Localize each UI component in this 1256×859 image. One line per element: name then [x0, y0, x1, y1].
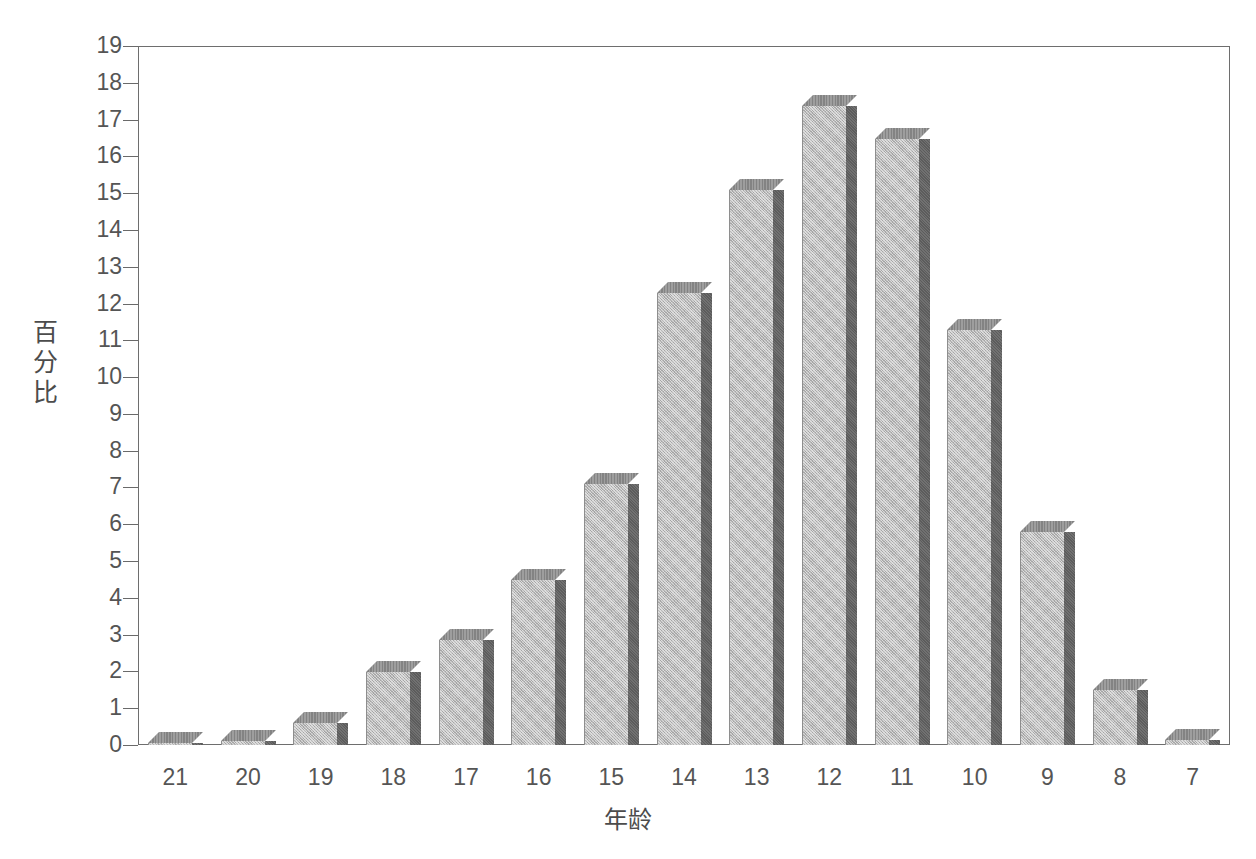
y-axis-tick-mark [123, 671, 138, 672]
y-axis-tick-label: 10 [62, 365, 122, 388]
y-axis-tick-label: 18 [62, 71, 122, 94]
bar [1165, 729, 1220, 746]
bar-front-face [511, 580, 555, 745]
bar [148, 732, 203, 745]
bar [584, 473, 639, 745]
bar-side-face [1137, 690, 1148, 745]
bar-side-face [337, 723, 348, 745]
y-axis-tick-mark [123, 304, 138, 305]
bar-side-face [1064, 532, 1075, 745]
y-axis-tick-mark [123, 120, 138, 121]
y-axis-tick-mark [123, 193, 138, 194]
bar-top-face [657, 282, 712, 293]
y-axis-tick-label: 9 [62, 402, 122, 425]
y-axis-title: 百分比 [28, 318, 62, 408]
y-axis-tick-label: 12 [62, 292, 122, 315]
bar [875, 128, 930, 745]
y-axis-tick-mark [123, 46, 138, 47]
bar [1020, 521, 1075, 745]
bar-front-face [584, 484, 628, 745]
y-axis-tick-label: 16 [62, 144, 122, 167]
y-axis-tick-label: 8 [62, 439, 122, 462]
bar-side-face [410, 672, 421, 745]
y-axis-tick-label: 11 [62, 328, 122, 351]
bar-front-face [657, 293, 701, 745]
bar-side-face [192, 743, 203, 745]
y-axis-tick-mark [123, 451, 138, 452]
bar-front-face [1020, 532, 1064, 745]
bar-side-face [555, 580, 566, 745]
x-axis-title: 年龄 [0, 806, 1256, 834]
y-axis-tick-mark [123, 745, 138, 746]
x-axis-tick-label: 14 [648, 764, 721, 790]
y-axis-tick-label: 5 [62, 549, 122, 572]
bar-top-face [947, 319, 1002, 330]
y-axis-tick-labels: 012345678910111213141516171819 [60, 0, 122, 859]
x-axis-tick-label: 21 [139, 764, 212, 790]
y-axis-tick-mark [123, 561, 138, 562]
bar [439, 629, 494, 745]
bar-side-face [265, 741, 276, 745]
y-axis-tick-label: 2 [62, 659, 122, 682]
y-axis-tick-label: 13 [62, 255, 122, 278]
y-axis-title-char: 分 [28, 348, 62, 378]
bar-top-face [1093, 679, 1148, 690]
x-axis-tick-label: 12 [793, 764, 866, 790]
bar-front-face [875, 139, 919, 745]
x-axis-tick-labels: 212019181716151413121110987 [139, 764, 1229, 798]
x-axis-tick-label: 9 [1011, 764, 1084, 790]
x-axis-tick-label: 11 [866, 764, 939, 790]
x-axis-tick-label: 18 [357, 764, 430, 790]
x-axis-tick-label: 19 [284, 764, 357, 790]
x-axis-tick-label: 20 [212, 764, 285, 790]
bar [657, 282, 712, 745]
bar [1093, 679, 1148, 745]
bar [729, 179, 784, 745]
bar-top-face [802, 95, 857, 106]
y-axis-tick-mark [123, 340, 138, 341]
y-axis-tick-mark [123, 377, 138, 378]
bar-side-face [773, 190, 784, 745]
bar [802, 95, 857, 745]
bars-layer [139, 47, 1229, 745]
y-axis-tick-mark [123, 524, 138, 525]
bar-side-face [701, 293, 712, 745]
bar-side-face [919, 139, 930, 745]
y-axis-tick-mark [123, 230, 138, 231]
bar-front-face [729, 190, 773, 745]
bar [947, 319, 1002, 745]
bar-top-face [366, 661, 421, 672]
bar-top-face [1165, 729, 1220, 740]
y-axis-tick-mark [123, 83, 138, 84]
y-axis-tick-label: 15 [62, 181, 122, 204]
bar-top-face [439, 629, 494, 640]
y-axis-title-char: 比 [28, 378, 62, 408]
bar [366, 661, 421, 745]
x-axis-tick-label: 7 [1156, 764, 1229, 790]
bar-side-face [991, 330, 1002, 745]
bar-front-face [1093, 690, 1137, 745]
y-axis-tick-mark [123, 635, 138, 636]
y-axis-tick-label: 7 [62, 475, 122, 498]
bar [221, 730, 276, 745]
x-axis-tick-label: 16 [502, 764, 575, 790]
bar [293, 712, 348, 745]
y-axis-tick-label: 0 [62, 733, 122, 756]
bar-top-face [148, 732, 203, 743]
y-axis-tick-label: 4 [62, 586, 122, 609]
bar-front-face [221, 741, 265, 745]
bar-chart: 百分比 012345678910111213141516171819 21201… [0, 0, 1256, 859]
bar [511, 569, 566, 745]
bar-top-face [511, 569, 566, 580]
bar-front-face [293, 723, 337, 745]
bar-top-face [729, 179, 784, 190]
y-axis-tick-label: 19 [62, 34, 122, 57]
bar-top-face [221, 730, 276, 741]
y-axis-tick-mark [123, 598, 138, 599]
x-axis-tick-label: 8 [1084, 764, 1157, 790]
x-axis-tick-label: 17 [430, 764, 503, 790]
bar-front-face [439, 640, 483, 745]
bar-front-face [366, 672, 410, 745]
bar-side-face [628, 484, 639, 745]
bar-top-face [875, 128, 930, 139]
